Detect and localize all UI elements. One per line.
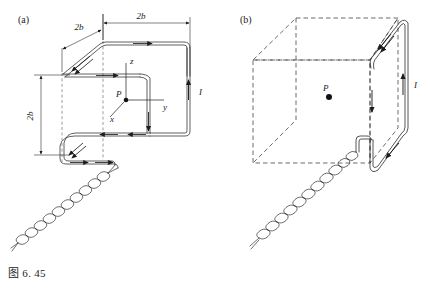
axis-y-label: y xyxy=(162,102,167,112)
point-p-marker-a xyxy=(124,98,129,103)
dimension-top-right-label: 2b xyxy=(137,11,147,21)
point-p-marker-b xyxy=(326,94,332,100)
point-p-label-a: P xyxy=(115,89,122,99)
figure-caption: 图 6. 45 xyxy=(8,264,46,280)
dimension-top-left-label: 2b xyxy=(75,22,85,32)
axis-z-label: z xyxy=(129,56,134,66)
axis-x-label: x xyxy=(109,114,114,124)
canvas-background xyxy=(0,0,430,289)
figure-container: (a) 2b 2b 2b xyxy=(0,0,430,289)
point-p-label-b: P xyxy=(322,83,329,93)
panel-a-tag: (a) xyxy=(18,14,29,26)
panel-b-tag: (b) xyxy=(240,14,252,26)
dimension-left-vertical-label: 2b xyxy=(25,111,35,121)
figure-svg: (a) 2b 2b 2b xyxy=(0,0,430,289)
